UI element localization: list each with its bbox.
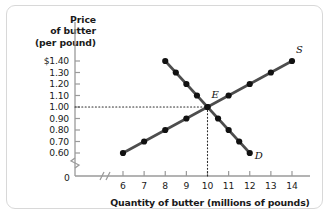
data-point bbox=[173, 69, 179, 75]
data-point bbox=[226, 127, 232, 133]
axes bbox=[75, 22, 310, 176]
data-point bbox=[268, 69, 274, 75]
data-point bbox=[289, 58, 295, 64]
data-point bbox=[236, 138, 242, 144]
supply-demand-figure: Price of butter (per pound) Quantity of … bbox=[0, 0, 331, 221]
data-point bbox=[183, 81, 189, 87]
data-point bbox=[162, 127, 168, 133]
data-point bbox=[183, 115, 189, 121]
data-point bbox=[120, 150, 126, 156]
data-point bbox=[247, 150, 253, 156]
data-point bbox=[247, 81, 253, 87]
plot-area bbox=[0, 0, 331, 221]
data-point bbox=[226, 92, 232, 98]
data-point bbox=[215, 115, 221, 121]
data-point bbox=[162, 58, 168, 64]
data-point bbox=[194, 92, 200, 98]
data-point bbox=[204, 104, 210, 110]
data-point bbox=[141, 138, 147, 144]
